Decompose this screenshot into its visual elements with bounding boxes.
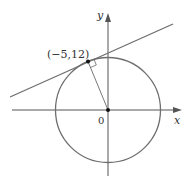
y-axis-arrow-icon <box>105 13 111 22</box>
tangent-line <box>10 24 173 97</box>
origin-dot <box>106 108 110 112</box>
x-axis-arrow-icon <box>173 107 182 113</box>
origin-label: 0 <box>98 115 104 126</box>
y-axis-label: y <box>96 9 104 22</box>
x-axis-label: x <box>174 114 181 127</box>
diagram-canvas: (−5,12) 0 x y <box>0 0 187 183</box>
radius-segment <box>88 62 108 111</box>
tangent-point-label: (−5,12) <box>47 48 89 61</box>
